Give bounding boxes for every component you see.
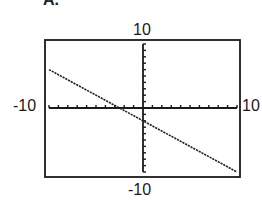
xmax-label: 10: [242, 98, 260, 114]
xmin-label: -10: [13, 98, 36, 114]
axes: [49, 44, 237, 172]
graph-plot: [0, 0, 262, 205]
ymax-label: 10: [133, 22, 151, 38]
ymin-label: -10: [128, 182, 151, 198]
